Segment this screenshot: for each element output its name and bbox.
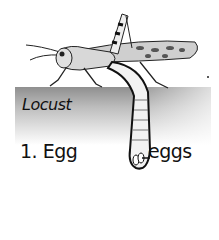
stage-label: 1. Egg — [20, 140, 77, 162]
eggs-pointer-label: eggs — [148, 140, 192, 162]
locust-label: Locust — [22, 95, 71, 114]
